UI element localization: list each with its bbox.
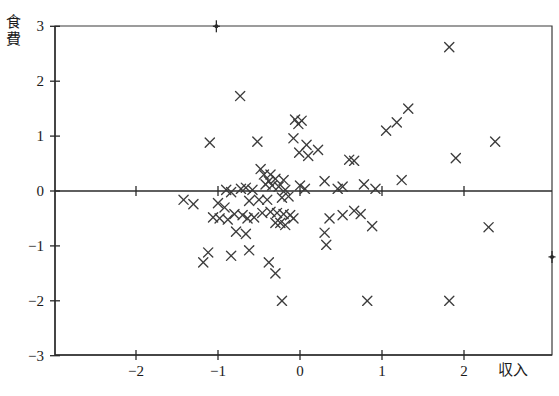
data-point: [264, 258, 273, 267]
x-tick-label: −2: [128, 363, 144, 379]
y-axis-title-char-2: 費: [3, 30, 23, 47]
data-point: [205, 138, 214, 147]
y-tick-label: 2: [37, 73, 45, 89]
data-point: [223, 215, 232, 224]
data-point: [271, 218, 280, 227]
x-tick-label: −1: [210, 363, 226, 379]
data-point: [322, 240, 331, 249]
data-point: [371, 184, 380, 193]
data-point: [241, 229, 250, 238]
chart-title-cropped: [0, 0, 559, 7]
data-point: [313, 145, 322, 154]
data-point: [320, 177, 329, 186]
data-point: [368, 222, 377, 231]
y-axis-title-char-1: 食: [3, 13, 23, 30]
x-axis-title: 収入: [498, 358, 528, 379]
data-point: [363, 296, 372, 305]
data-point: [451, 153, 460, 162]
edge-arrow-markers: [213, 20, 556, 263]
y-axis-title: 食 費: [3, 13, 23, 47]
scatter-plot-figure: 食 費 収入 3210−1−2−3 −2−1012: [0, 0, 559, 396]
data-point: [245, 196, 254, 205]
y-tick-label: −2: [28, 293, 44, 309]
y-tick-label: 0: [37, 183, 45, 199]
data-point: [208, 213, 217, 222]
data-point: [238, 211, 247, 220]
x-tick-label: 2: [460, 363, 468, 379]
data-point: [392, 118, 401, 127]
data-point: [243, 214, 252, 223]
data-point: [491, 137, 500, 146]
data-point: [300, 184, 309, 193]
data-point: [277, 193, 286, 202]
data-point: [179, 195, 188, 204]
data-point: [231, 227, 240, 236]
data-point: [445, 43, 454, 52]
data-point: [277, 296, 286, 305]
data-point: [484, 223, 493, 232]
data-point: [227, 251, 236, 260]
data-point: [266, 207, 275, 216]
x-tick-label: 1: [378, 363, 386, 379]
data-point: [189, 200, 198, 209]
plot-canvas: 3210−1−2−3 −2−1012: [0, 0, 559, 396]
y-tick-label: 3: [37, 18, 45, 34]
data-point: [236, 91, 245, 100]
x-tick-labels: −2−1012: [128, 363, 468, 379]
data-point: [204, 248, 213, 257]
data-point: [213, 198, 222, 207]
data-point: [254, 195, 263, 204]
data-point: [445, 296, 454, 305]
data-point: [253, 137, 262, 146]
data-point: [359, 180, 368, 189]
edge-arrow-marker: [549, 251, 556, 263]
data-point: [263, 195, 272, 204]
axis-ticks: [50, 26, 464, 360]
data-point: [295, 148, 304, 157]
data-point: [404, 104, 413, 113]
data-point: [290, 115, 299, 124]
data-point: [248, 185, 257, 194]
y-tick-label: −3: [28, 348, 44, 364]
y-tick-label: 1: [37, 128, 45, 144]
data-points: [179, 43, 500, 306]
data-point: [320, 228, 329, 237]
data-point: [220, 203, 229, 212]
data-point: [297, 116, 306, 125]
data-point: [382, 126, 391, 135]
data-point: [199, 258, 208, 267]
data-point: [279, 175, 288, 184]
data-point: [325, 214, 334, 223]
y-tick-labels: 3210−1−2−3: [28, 18, 44, 363]
data-point: [279, 209, 288, 218]
data-point: [245, 246, 254, 255]
data-point: [261, 180, 270, 189]
data-point: [338, 211, 347, 220]
data-point: [271, 269, 280, 278]
x-tick-label: 0: [296, 363, 304, 379]
edge-arrow-marker: [213, 20, 220, 32]
data-point: [256, 164, 265, 173]
data-point: [397, 175, 406, 184]
data-point: [304, 151, 313, 160]
y-tick-label: −1: [28, 238, 44, 254]
data-point: [289, 134, 298, 143]
data-point: [272, 208, 281, 217]
data-point: [289, 214, 298, 223]
